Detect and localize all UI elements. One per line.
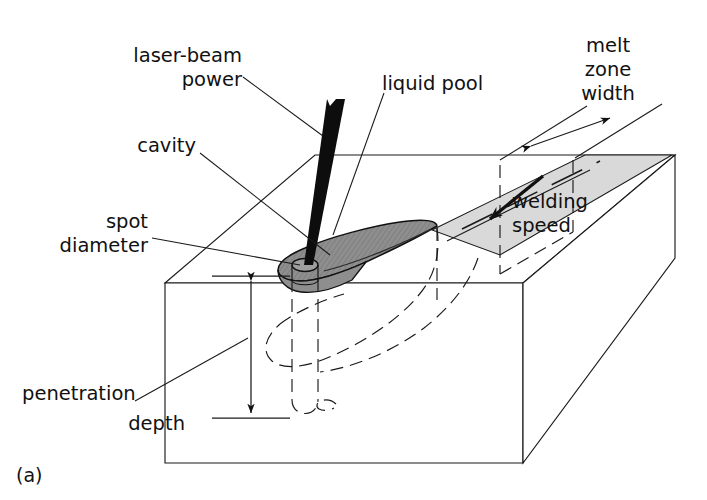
label-penetration-depth-line1: penetration bbox=[22, 382, 136, 405]
label-laser-beam-power-line1: laser-beam bbox=[133, 44, 242, 67]
label-welding-speed-line1: welding bbox=[512, 190, 588, 213]
label-welding-speed-line2: speed bbox=[512, 214, 571, 237]
figure-caption: (a) bbox=[16, 464, 42, 486]
laser-welding-diagram: laser-beam power cavity spot diameter pe… bbox=[0, 0, 707, 500]
label-laser-beam-power-line2: power bbox=[182, 68, 243, 91]
label-penetration-depth-line2: depth bbox=[128, 412, 185, 435]
label-melt-zone-width-line2: zone bbox=[585, 58, 632, 81]
block-front-face bbox=[165, 283, 523, 463]
label-spot-diameter-line2: diameter bbox=[60, 234, 149, 257]
label-spot-diameter-line1: spot bbox=[106, 210, 148, 233]
label-liquid-pool: liquid pool bbox=[382, 72, 483, 95]
label-melt-zone-width-line1: melt bbox=[586, 34, 630, 57]
label-melt-zone-width-line3: width bbox=[581, 82, 635, 105]
label-cavity: cavity bbox=[137, 134, 196, 157]
